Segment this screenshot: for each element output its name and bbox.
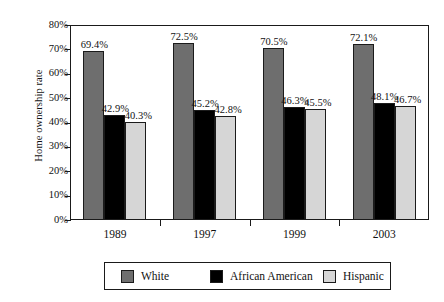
legend-item[interactable]: Hispanic: [323, 263, 384, 289]
legend-label: White: [141, 270, 169, 282]
y-axis-tick-label: 20%: [12, 166, 68, 176]
x-axis-tick-mark: [250, 220, 251, 226]
bar-value-label: 42.8%: [209, 104, 247, 115]
bars-layer: 69.4%42.9%40.3%72.5%45.2%42.8%70.5%46.3%…: [70, 25, 429, 220]
y-axis-tick-label: 70%: [12, 44, 68, 54]
bar: [353, 44, 374, 220]
y-axis-tick-label: 50%: [12, 93, 68, 103]
x-axis-tick-label: 2003: [344, 228, 424, 240]
bar: [395, 106, 416, 220]
bar: [305, 109, 326, 220]
bar: [215, 116, 236, 220]
y-axis-tick-mark: [65, 220, 71, 221]
y-axis-tick-label: 40%: [12, 117, 68, 127]
x-axis-tick-label: 1999: [254, 228, 334, 240]
bar-group: 69.4%42.9%40.3%: [83, 25, 146, 220]
bar-value-label: 70.5%: [255, 36, 293, 47]
bar: [374, 103, 395, 220]
x-axis-tick-mark: [160, 220, 161, 226]
bar-chart: Home ownership rate 0%10%20%30%40%50%60%…: [0, 0, 444, 302]
legend-label: African American: [230, 270, 313, 282]
bar-value-label: 45.5%: [299, 97, 337, 108]
bar: [194, 110, 215, 220]
bar-value-label: 40.3%: [119, 110, 157, 121]
bar: [263, 48, 284, 220]
bar-value-label: 69.4%: [75, 39, 113, 50]
legend-label: Hispanic: [343, 270, 384, 282]
x-axis-tick-mark: [339, 220, 340, 226]
bar: [83, 51, 104, 220]
legend-swatch-icon: [121, 270, 134, 283]
bar-group: 72.5%45.2%42.8%: [173, 25, 236, 220]
legend-swatch-icon: [210, 270, 223, 283]
bar-value-label: 46.7%: [389, 94, 427, 105]
x-axis-tick-label: 1989: [75, 228, 155, 240]
y-axis-tick-label: 0%: [12, 215, 68, 225]
y-axis-tick-label: 30%: [12, 141, 68, 151]
bar-value-label: 72.1%: [345, 32, 383, 43]
bar: [284, 107, 305, 220]
y-axis-tick-label: 10%: [12, 190, 68, 200]
legend: WhiteAfrican AmericanHispanic: [104, 262, 391, 290]
bar-group: 70.5%46.3%45.5%: [263, 25, 326, 220]
legend-item[interactable]: White: [121, 263, 169, 289]
x-axis-tick-label: 1997: [165, 228, 245, 240]
y-axis-tick-label: 60%: [12, 68, 68, 78]
legend-swatch-icon: [323, 270, 336, 283]
bar-value-label: 72.5%: [165, 31, 203, 42]
y-axis-tick-label: 80%: [12, 20, 68, 30]
bar: [125, 122, 146, 220]
bar: [173, 43, 194, 220]
bar-group: 72.1%48.1%46.7%: [353, 25, 416, 220]
legend-item[interactable]: African American: [210, 263, 313, 289]
bar: [104, 115, 125, 220]
